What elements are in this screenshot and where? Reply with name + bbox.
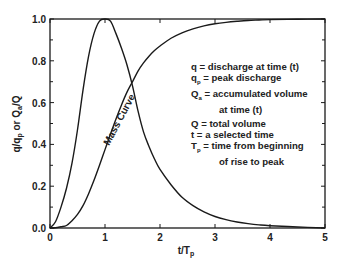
legend-line: of rise to peak [191,156,341,167]
tick-label: 0.2 [32,181,46,192]
tick-label: 0 [47,232,53,243]
tick-label: 4 [267,232,273,243]
tick-label: 0.8 [32,56,46,67]
legend-line: qp = peak discharge [191,72,341,88]
legend-line: Qa = accumulated volume [191,88,341,104]
tick-label: 0.6 [32,98,46,109]
legend-line: q = discharge at time (t) [191,61,341,72]
tick-label: 3 [212,232,218,243]
legend-line: Tp = time from beginning [191,140,341,156]
legend-line: at time (t) [191,104,341,115]
legend-line: t = a selected time [191,129,341,140]
legend-text: = time from beginning [201,140,304,151]
legend: q = discharge at time (t)qp = peak disch… [191,61,341,167]
legend-text: = discharge at time (t) [197,61,299,72]
legend-text: at time (t) [219,104,262,115]
legend-text: = peak discharge [201,72,282,83]
tick-label: 1 [102,232,108,243]
tick-label: 0.0 [32,223,46,234]
legend-text: of rise to peak [219,156,284,167]
y-axis-title: q/qp or Qa/Q [11,95,24,152]
mass-curve-label: Mass Curve [101,92,137,147]
legend-text: = a selected time [194,129,274,140]
x-axis-title: t/Tp [178,245,195,258]
tick-label: 5 [322,232,328,243]
legend-text: = total volume [198,118,265,129]
legend-text: = accumulated volume [202,88,308,99]
tick-label: 0.4 [32,139,46,150]
legend-line: Q = total volume [191,118,341,129]
tick-label: 2 [157,232,163,243]
tick-label: 1.0 [32,14,46,25]
